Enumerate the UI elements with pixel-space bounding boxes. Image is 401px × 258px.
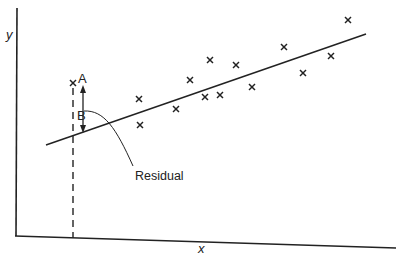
data-point-marker <box>207 57 213 63</box>
x-axis-label: x <box>198 242 205 255</box>
data-points <box>136 17 351 128</box>
data-point-marker <box>233 62 239 68</box>
x-axis <box>15 236 396 248</box>
data-point-marker <box>202 94 208 100</box>
regression-residual-diagram: y x A B Residual <box>0 0 401 258</box>
point-a-cross <box>70 80 76 86</box>
point-a-label: A <box>78 72 87 85</box>
data-point-marker <box>281 44 287 50</box>
point-b-label: B <box>77 109 86 122</box>
data-point-marker <box>217 92 223 98</box>
y-axis-label: y <box>6 28 13 41</box>
plot-area <box>0 0 401 258</box>
data-point-marker <box>345 17 351 23</box>
data-point-marker <box>136 96 142 102</box>
data-point-marker <box>328 53 334 59</box>
data-point-marker <box>249 84 255 90</box>
residual-label: Residual <box>135 170 184 183</box>
regression-line <box>46 34 366 145</box>
residual-leader-curve <box>84 111 133 166</box>
data-point-marker <box>300 70 306 76</box>
data-point-marker <box>173 106 179 112</box>
y-axis <box>16 8 17 236</box>
data-point-marker <box>187 77 193 83</box>
data-point-marker <box>137 122 143 128</box>
point-a-marker <box>70 80 76 86</box>
